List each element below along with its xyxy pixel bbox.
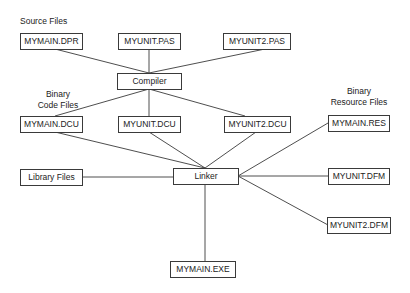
node-mymain-dcu: MYMAIN.DCU [20,116,83,133]
edge-mymain-dpr-compiler [55,49,149,73]
node-linker: Linker [173,168,239,185]
label-binary-code-files: Binary Code Files [33,89,83,111]
node-myunit2-dfm: MYUNIT2.DFM [327,217,391,234]
edge-myunit2-dfm-linker [238,176,328,225]
edge-mymain-dcu-linker [55,132,205,168]
node-myunit-dcu: MYUNIT.DCU [118,116,181,133]
label-source-files: Source Files [20,16,67,27]
node-myunit2-pas: MYUNIT2.PAS [223,33,291,50]
label-binary-code-files-line2: Code Files [33,100,83,111]
node-compiler: Compiler [117,73,182,90]
edge-compiler-myunit2-dcu [149,89,245,116]
edge-myunit2-dcu-linker [205,132,256,168]
node-myunit2-dcu: MYUNIT2.DCU [224,116,291,133]
label-binary-resource-files: Binary Resource Files [326,86,392,108]
label-binary-resource-files-line1: Binary [326,86,392,97]
edge-myunit-dcu-linker [149,132,205,168]
node-mymain-dpr: MYMAIN.DPR [20,33,83,50]
label-binary-resource-files-line2: Resource Files [326,97,392,108]
node-myunit-pas: MYUNIT.PAS [118,33,181,50]
node-library-files: Library Files [20,169,83,186]
edge-myunit2-pas-compiler [149,49,265,73]
build-process-diagram: Source Files Binary Code Files Binary Re… [0,0,410,293]
label-binary-code-files-line1: Binary [33,89,83,100]
node-mymain-res: MYMAIN.RES [328,115,390,132]
node-mymain-exe: MYMAIN.EXE [170,261,236,278]
node-myunit-dfm: MYUNIT.DFM [328,168,390,185]
